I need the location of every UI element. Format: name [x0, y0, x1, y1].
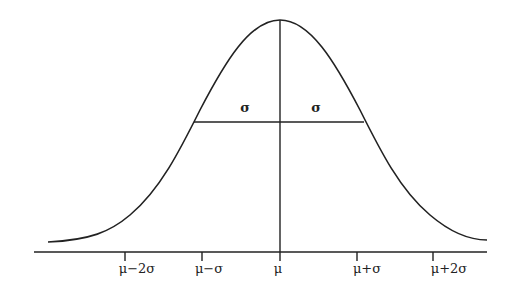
tick-label-mu-minus-sigma: μ−σ: [195, 261, 223, 276]
sigma-left-label: σ: [240, 100, 250, 115]
bell-curve: [48, 20, 487, 242]
tick-label-mu-plus-2sigma: μ+2σ: [431, 261, 468, 276]
x-axis-ticks: [125, 252, 433, 261]
normal-curve-diagram: [0, 0, 515, 293]
sigma-right-label: σ: [311, 100, 321, 115]
tick-label-mu: μ: [274, 261, 282, 276]
tick-label-mu-minus-2sigma: μ−2σ: [119, 261, 156, 276]
tick-label-mu-plus-sigma: μ+σ: [353, 261, 381, 276]
